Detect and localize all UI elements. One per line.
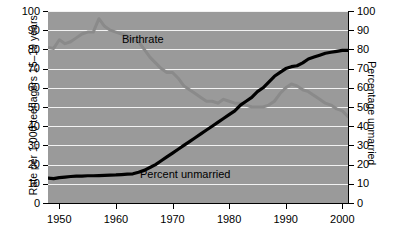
y-tickmark-left-50 (43, 107, 48, 108)
x-tickmark-1980 (229, 204, 230, 209)
plot-area: Birthrate Percent unmarried (48, 11, 348, 203)
x-axis-line (48, 203, 349, 204)
y-tick-left-70: 70 (10, 63, 40, 74)
x-tick-1950: 1950 (39, 214, 79, 225)
y-tick-left-100: 100 (10, 6, 40, 17)
y-tickmark-left-80 (43, 49, 48, 50)
y-tickmark-right-0 (349, 203, 354, 204)
y-tick-right-90: 90 (357, 25, 387, 36)
y-tick-right-20: 20 (357, 159, 387, 170)
y-tick-right-80: 80 (357, 44, 387, 55)
y-tickmark-right-80 (349, 49, 354, 50)
x-tick-1960: 1960 (96, 214, 136, 225)
x-tickmark-1970 (173, 204, 174, 209)
y-tick-left-0: 0 (10, 198, 40, 209)
y-tickmark-right-90 (349, 30, 354, 31)
y-tickmark-left-90 (43, 30, 48, 31)
y-tick-left-40: 40 (10, 121, 40, 132)
y-tick-right-0: 0 (357, 198, 387, 209)
y-tick-right-50: 50 (357, 102, 387, 113)
y-tickmark-left-30 (43, 145, 48, 146)
y-tickmark-right-50 (349, 107, 354, 108)
y-tick-right-100: 100 (357, 6, 387, 17)
y-tick-left-20: 20 (10, 159, 40, 170)
y-tick-right-60: 60 (357, 82, 387, 93)
x-tickmark-2000 (342, 204, 343, 209)
y-tick-right-30: 30 (357, 140, 387, 151)
y-tickmark-left-40 (43, 126, 48, 127)
y-tickmark-right-30 (349, 145, 354, 146)
y-tick-right-10: 10 (357, 178, 387, 189)
y-tick-left-60: 60 (10, 82, 40, 93)
x-tick-2000: 2000 (322, 214, 362, 225)
y-tickmark-left-60 (43, 88, 48, 89)
series-label-percent-unmarried: Percent unmarried (140, 169, 231, 180)
x-tick-1990: 1990 (266, 214, 306, 225)
y-tick-left-30: 30 (10, 140, 40, 151)
chart-figure: Rate per 1,000 teenagers 15–19 years Per… (0, 0, 393, 232)
y-tickmark-left-70 (43, 69, 48, 70)
y-tickmark-right-10 (349, 184, 354, 185)
x-tickmark-1950 (59, 204, 60, 209)
y-tick-left-10: 10 (10, 178, 40, 189)
x-tick-1980: 1980 (209, 214, 249, 225)
x-tick-1970: 1970 (153, 214, 193, 225)
y-tick-right-70: 70 (357, 63, 387, 74)
y-tick-left-80: 80 (10, 44, 40, 55)
y-tickmark-left-20 (43, 165, 48, 166)
y-tickmark-right-40 (349, 126, 354, 127)
y-tickmark-left-10 (43, 184, 48, 185)
y-tickmark-right-100 (349, 11, 354, 12)
y-tickmark-right-60 (349, 88, 354, 89)
y-tick-left-50: 50 (10, 102, 40, 113)
series-line-percent-unmarried (48, 50, 348, 178)
x-tickmark-1960 (116, 204, 117, 209)
y-tick-left-90: 90 (10, 25, 40, 36)
series-label-birthrate: Birthrate (122, 34, 164, 45)
x-tickmark-1990 (286, 204, 287, 209)
y-tickmark-left-0 (43, 203, 48, 204)
y-tickmark-left-100 (43, 11, 48, 12)
y-tickmark-right-70 (349, 69, 354, 70)
y-tickmark-right-20 (349, 165, 354, 166)
series-line-birthrate (48, 19, 348, 117)
y-tick-right-40: 40 (357, 121, 387, 132)
